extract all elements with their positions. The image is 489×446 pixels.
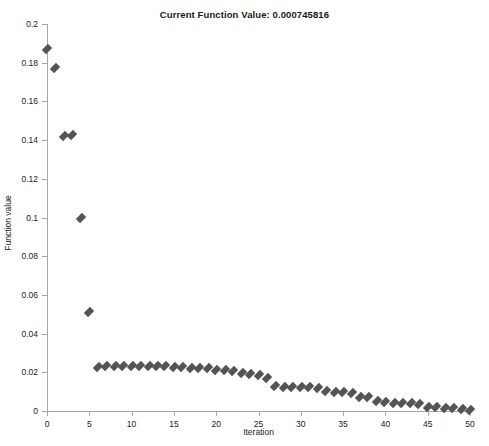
y-axis-tick-label: 0.12 xyxy=(21,174,38,184)
x-axis-tick: 40 xyxy=(385,411,386,416)
x-axis-tick: 25 xyxy=(259,411,260,416)
x-axis-tick: 10 xyxy=(132,411,133,416)
x-axis-tick: 15 xyxy=(174,411,175,416)
y-axis-tick: 0.06 xyxy=(42,295,47,296)
y-axis-tick: 0.14 xyxy=(42,140,47,141)
y-axis-tick: 0.12 xyxy=(42,179,47,180)
x-axis-tick: 30 xyxy=(301,411,302,416)
x-axis-tick: 45 xyxy=(428,411,429,416)
data-point-marker xyxy=(50,62,60,72)
page-title: Current Function Value: 0.000745816 xyxy=(0,9,489,20)
data-point-marker xyxy=(465,404,475,414)
x-axis-tick: 20 xyxy=(216,411,217,416)
data-point-marker xyxy=(84,307,94,317)
x-axis-tick: 0 xyxy=(47,411,48,416)
clipped-footer-text xyxy=(18,437,458,446)
y-axis-tick: 0.2 xyxy=(42,24,47,25)
x-axis-title: Iteration xyxy=(47,427,470,437)
y-axis-tick-label: 0.08 xyxy=(21,251,38,261)
data-point-marker xyxy=(338,387,348,397)
data-point-marker xyxy=(76,213,86,223)
y-axis-tick-label: 0.2 xyxy=(26,19,38,29)
y-axis-tick: 0.1 xyxy=(42,218,47,219)
x-axis-tick: 5 xyxy=(89,411,90,416)
data-point-marker xyxy=(245,369,255,379)
figure-container: Current Function Value: 0.000745816 00.0… xyxy=(0,0,489,446)
data-point-marker xyxy=(42,44,52,54)
y-axis-tick-label: 0.04 xyxy=(21,329,38,339)
y-axis-tick-label: 0.02 xyxy=(21,367,38,377)
y-axis-tick: 0.08 xyxy=(42,256,47,257)
data-point-marker xyxy=(380,397,390,407)
y-axis-tick-label: 0.1 xyxy=(26,213,38,223)
y-axis-tick-label: 0 xyxy=(33,406,38,416)
y-axis-title: Function value xyxy=(3,195,13,250)
y-axis-tick: 0.04 xyxy=(42,334,47,335)
y-axis-tick-label: 0.18 xyxy=(21,58,38,68)
data-point-marker xyxy=(67,130,77,140)
plot-area: 00.020.040.060.080.10.120.140.160.180.20… xyxy=(47,24,470,411)
y-axis-tick-label: 0.14 xyxy=(21,135,38,145)
y-axis-tick-label: 0.06 xyxy=(21,290,38,300)
x-axis-tick: 35 xyxy=(343,411,344,416)
y-axis-tick: 0.02 xyxy=(42,372,47,373)
y-axis-tick: 0.16 xyxy=(42,101,47,102)
y-axis-tick: 0.18 xyxy=(42,63,47,64)
y-axis-tick-label: 0.16 xyxy=(21,96,38,106)
